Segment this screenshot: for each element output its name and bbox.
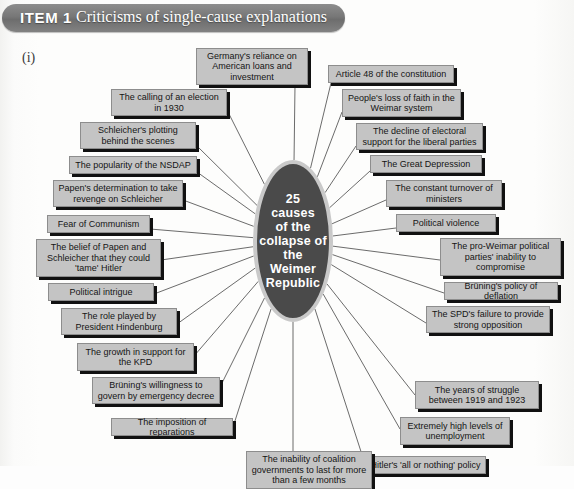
cause-box[interactable]: Extremely high levels of unemployment xyxy=(400,417,510,445)
cause-box-label: Hitler's 'all or nothing' policy xyxy=(370,460,480,471)
cause-box-label: Political intrigue xyxy=(69,287,132,298)
spoke-line xyxy=(311,83,331,168)
item-number-label: ITEM 1 xyxy=(20,9,72,26)
cause-box-label: The years of struggle between 1919 and 1… xyxy=(420,385,534,406)
spoke-line xyxy=(197,172,255,214)
spoke-line xyxy=(294,85,295,160)
cause-box-label: The popularity of the NSDAP xyxy=(75,160,191,171)
cause-box[interactable]: The years of struggle between 1919 and 1… xyxy=(415,381,539,409)
cause-box-label: Fear of Communism xyxy=(58,219,140,230)
spoke-line xyxy=(177,268,255,324)
cause-box[interactable]: The decline of electoral support for the… xyxy=(356,123,483,150)
spoke-line xyxy=(150,229,253,238)
mind-map-diagram: 25causesof thecollapse oftheWeimerRepubl… xyxy=(0,34,574,466)
cause-box[interactable]: Political violence xyxy=(396,214,496,232)
cause-box-label: Schleicher's plotting behind the scenes xyxy=(85,125,191,146)
cause-box-label: Brüning's willingness to govern by emerg… xyxy=(97,380,215,401)
cause-box-label: The belief of Papen and Schleicher that … xyxy=(41,242,156,274)
cause-box[interactable]: The growth in support for the KPD xyxy=(77,343,194,371)
cause-box-label: The calling of an election in 1930 xyxy=(116,92,222,113)
spoke-line xyxy=(325,146,356,193)
spoke-line xyxy=(154,256,254,294)
spoke-line xyxy=(194,281,258,356)
spoke-line xyxy=(233,309,271,427)
cause-box[interactable]: Brüning's policy of deflation xyxy=(444,282,558,300)
cause-box-label: The pro-Weimar political parties' inabil… xyxy=(445,241,556,273)
cause-box[interactable]: The inability of coalition governments t… xyxy=(246,451,372,489)
spoke-line xyxy=(183,200,254,226)
cause-box-label: The role played by President Hindenburg xyxy=(66,311,172,332)
item-title: Criticisms of single-cause explanations xyxy=(76,8,327,26)
cause-box-label: Article 48 of the constitution xyxy=(336,69,447,80)
cause-box[interactable]: The role played by President Hindenburg xyxy=(61,308,177,335)
spoke-line xyxy=(331,265,426,323)
cause-box-label: Political violence xyxy=(413,218,480,229)
cause-box-label: The constant turnover of ministers xyxy=(391,183,497,204)
spoke-line xyxy=(227,110,264,184)
cause-box[interactable]: Hitler's 'all or nothing' policy xyxy=(365,456,486,474)
cause-box-label: The imposition of reparations xyxy=(116,417,228,438)
center-node: 25causesof thecollapse oftheWeimerRepubl… xyxy=(253,160,333,322)
spoke-line xyxy=(220,298,265,387)
spoke-line xyxy=(333,246,440,260)
spoke-line xyxy=(161,247,253,260)
spoke-line xyxy=(196,145,257,205)
cause-box[interactable]: The SPD's failure to provide strong oppo… xyxy=(426,306,550,333)
item-header-bar: ITEM 1 Criticisms of single-cause explan… xyxy=(2,4,345,32)
cause-box-label: The SPD's failure to provide strong oppo… xyxy=(431,309,545,330)
cause-box[interactable]: Papen's determination to take revenge on… xyxy=(53,180,183,207)
cause-box-label: Germany's reliance on American loans and… xyxy=(201,51,303,83)
spoke-line xyxy=(315,309,365,464)
cause-box[interactable]: Brüning's willingness to govern by emerg… xyxy=(92,377,220,404)
cause-box[interactable]: The popularity of the NSDAP xyxy=(69,156,197,174)
cause-box[interactable]: The pro-Weimar political parties' inabil… xyxy=(440,238,561,276)
cause-box-label: People's loss of faith in the Weimar sys… xyxy=(347,93,456,114)
cause-box-label: The decline of electoral support for the… xyxy=(361,126,478,147)
cause-box[interactable]: Fear of Communism xyxy=(47,215,150,233)
cause-box[interactable]: The belief of Papen and Schleicher that … xyxy=(36,239,161,277)
cause-box[interactable]: Germany's reliance on American loans and… xyxy=(196,48,308,85)
cause-box-label: Papen's determination to take revenge on… xyxy=(58,183,178,204)
cause-box[interactable]: Article 48 of the constitution xyxy=(328,65,454,83)
spoke-line xyxy=(332,255,444,293)
spoke-line xyxy=(333,228,396,236)
cause-box[interactable]: The calling of an election in 1930 xyxy=(111,89,227,116)
cause-box[interactable]: The Great Depression xyxy=(370,155,482,173)
cause-box-label: Brüning's policy of deflation xyxy=(449,281,553,302)
cause-box[interactable]: The imposition of reparations xyxy=(111,418,233,436)
spoke-line xyxy=(332,200,386,224)
center-node-label: 25causesof thecollapse oftheWeimerRepubl… xyxy=(259,192,327,290)
cause-box-label: The Great Depression xyxy=(382,159,471,170)
cause-box[interactable]: Political intrigue xyxy=(48,283,154,301)
cause-box[interactable]: The constant turnover of ministers xyxy=(386,180,502,207)
cause-box[interactable]: Schleicher's plotting behind the scenes xyxy=(80,122,196,149)
spoke-line xyxy=(317,112,342,177)
cause-box[interactable]: People's loss of faith in the Weimar sys… xyxy=(342,89,461,117)
cause-box-label: The inability of coalition governments t… xyxy=(251,454,367,486)
cause-box-label: The growth in support for the KPD xyxy=(82,347,189,368)
cause-box-label: Extremely high levels of unemployment xyxy=(405,421,505,442)
